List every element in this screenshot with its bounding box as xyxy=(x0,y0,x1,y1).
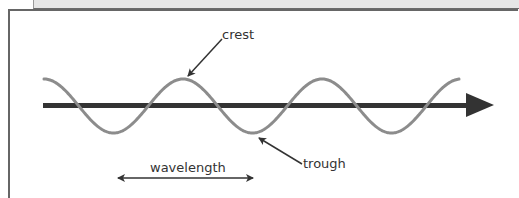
crest-label: crest xyxy=(222,27,254,42)
axis-arrowhead-icon xyxy=(466,93,494,117)
trough-label: trough xyxy=(303,156,346,171)
trough-annotation: trough xyxy=(259,138,346,171)
crest-arrow-icon xyxy=(188,39,222,76)
wavelength-annotation: wavelength xyxy=(118,160,253,178)
trough-arrow-icon xyxy=(259,138,302,164)
wavelength-label: wavelength xyxy=(150,160,226,175)
crest-annotation: crest xyxy=(188,27,254,76)
